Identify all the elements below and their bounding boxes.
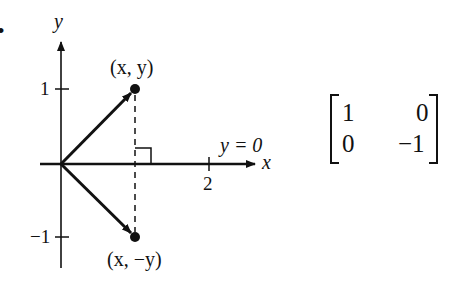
right-bracket [429,94,438,164]
point-reflected [130,232,140,242]
left-bracket [330,94,339,164]
reflection-matrix: 1 0 0 −1 [330,94,438,164]
tick-label-x-2: 2 [203,173,213,194]
bullet: • [0,18,5,43]
label-reflected-point: (x, −y) [107,248,162,271]
line-label: y = 0 [218,134,262,157]
matrix-r1c1: 1 [342,100,355,125]
x-axis-label: x [261,151,271,173]
label-original-point: (x, y) [110,56,153,79]
matrix-r2c2: −1 [398,131,425,156]
y-axis-label: y [52,10,63,33]
tick-label-y-1: 1 [40,78,50,99]
right-angle-marker [135,148,151,164]
tick-label-y-neg1: −1 [30,226,50,247]
vector-reflected [61,164,131,233]
matrix-r1c2: 0 [416,100,429,125]
matrix-r2c1: 0 [342,131,355,156]
point-original [130,84,140,94]
vector-original [61,93,131,164]
